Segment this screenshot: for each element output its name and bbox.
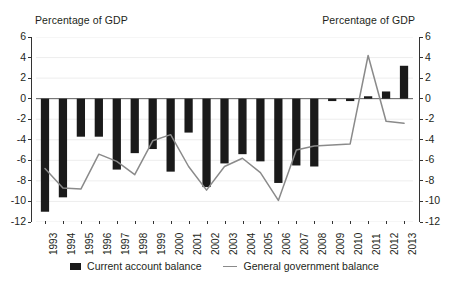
y-axis-tick-label: 6	[20, 31, 26, 42]
axis-tick-mark	[420, 201, 423, 202]
plot-area	[36, 37, 413, 222]
x-axis-tick-mark	[404, 221, 405, 224]
y-axis-tick-label: 2	[20, 72, 26, 83]
bar	[202, 99, 210, 187]
bar	[346, 99, 354, 101]
y-axis-tick-label: 6	[425, 31, 431, 42]
axis-tick-mark	[28, 222, 31, 223]
axis-tick-mark	[28, 201, 31, 202]
bar	[184, 99, 192, 133]
x-axis-tick-mark	[260, 221, 261, 224]
y-axis-tick-label: -6	[17, 154, 26, 165]
bar	[274, 99, 282, 183]
axis-tick-mark	[420, 57, 423, 58]
y-axis-tick-label: 2	[425, 72, 431, 83]
bar-swatch-icon	[70, 263, 81, 270]
x-axis-tick-label: 1998	[139, 233, 149, 255]
bar	[292, 99, 300, 166]
line-swatch-icon	[223, 266, 237, 267]
x-axis-tick-label: 1993	[49, 233, 59, 255]
x-axis-tick-label: 2008	[318, 233, 328, 255]
bar	[59, 99, 67, 198]
chart-canvas	[36, 37, 413, 222]
x-axis-tick-mark	[117, 221, 118, 224]
x-axis-tick-label: 2001	[193, 233, 203, 255]
x-axis-tick-mark	[99, 221, 100, 224]
axis-tick-mark	[420, 139, 423, 140]
x-axis-tick-label: 2004	[247, 233, 257, 255]
x-axis-tick-label: 2005	[264, 233, 274, 255]
bar	[382, 91, 390, 98]
x-axis-tick-mark	[332, 221, 333, 224]
x-axis-tick-mark	[171, 221, 172, 224]
left-axis-caption: Percentage of GDP	[35, 14, 128, 26]
bar	[77, 99, 85, 137]
x-axis-tick-label: 2012	[390, 233, 400, 255]
right-axis-caption: Percentage of GDP	[322, 14, 415, 26]
y-axis-tick-label: -2	[17, 113, 26, 124]
axis-tick-mark	[420, 160, 423, 161]
x-axis-tick-mark	[368, 221, 369, 224]
y-axis-tick-label: -8	[17, 175, 26, 186]
y-axis-tick-label: -10	[11, 195, 26, 206]
bar	[256, 99, 264, 162]
chart-figure: Percentage of GDP Percentage of GDP 6420…	[0, 0, 449, 290]
x-axis-tick-mark	[296, 221, 297, 224]
bar	[364, 96, 372, 98]
bar	[131, 99, 139, 153]
y-axis-tick-label: -4	[17, 134, 26, 145]
axis-tick-mark	[420, 98, 423, 99]
y-axis-tick-label: 0	[20, 93, 26, 104]
x-axis-tick-label: 1995	[85, 233, 95, 255]
axis-tick-mark	[420, 222, 423, 223]
y-axis-tick-label: -6	[425, 154, 434, 165]
y-axis-tick-label: 0	[425, 93, 431, 104]
bar	[41, 99, 49, 212]
axis-tick-mark	[28, 37, 31, 38]
y-axis-tick-label: -4	[425, 134, 434, 145]
x-axis-tick-mark	[135, 221, 136, 224]
x-axis-tick-label: 2011	[372, 233, 382, 255]
axis-tick-mark	[28, 180, 31, 181]
axis-tick-mark	[420, 180, 423, 181]
legend-label-government-balance: General government balance	[243, 260, 378, 272]
x-axis-tick-mark	[63, 221, 64, 224]
axis-tick-mark	[28, 139, 31, 140]
x-axis-tick-mark	[278, 221, 279, 224]
legend-item-government-balance: General government balance	[223, 260, 378, 272]
axis-tick-mark	[420, 78, 423, 79]
y-axis-tick-label: -2	[425, 113, 434, 124]
x-axis-tick-mark	[225, 221, 226, 224]
x-axis-tick-label: 1999	[157, 233, 167, 255]
y-axis-tick-label: -10	[425, 195, 440, 206]
bar	[220, 99, 228, 164]
bar	[328, 99, 336, 101]
y-axis-tick-label: -8	[425, 175, 434, 186]
y-axis-tick-label: 4	[20, 52, 26, 63]
x-axis-tick-mark	[386, 221, 387, 224]
x-axis-tick-mark	[45, 221, 46, 224]
x-axis-tick-label: 2002	[211, 233, 221, 255]
x-axis-tick-label: 2007	[300, 233, 310, 255]
x-axis-tick-label: 2000	[175, 233, 185, 255]
axis-tick-mark	[420, 119, 423, 120]
x-axis-tick-label: 1996	[103, 233, 113, 255]
x-axis-tick-mark	[189, 221, 190, 224]
x-axis: 1993199419951996199719981999200020012002…	[36, 224, 413, 258]
x-axis-tick-label: 2009	[336, 233, 346, 255]
axis-tick-mark	[28, 160, 31, 161]
axis-tick-mark	[420, 37, 423, 38]
x-axis-tick-label: 2006	[282, 233, 292, 255]
chart-legend: Current account balance General governme…	[0, 260, 449, 272]
axis-tick-mark	[28, 119, 31, 120]
x-axis-tick-mark	[243, 221, 244, 224]
x-axis-tick-mark	[350, 221, 351, 224]
bar	[238, 99, 246, 155]
y-axis-tick-label: -12	[425, 216, 440, 227]
bar	[113, 99, 121, 170]
x-axis-tick-mark	[207, 221, 208, 224]
bar	[310, 99, 318, 167]
legend-item-current-account: Current account balance	[70, 260, 201, 272]
x-axis-tick-label: 2003	[229, 233, 239, 255]
axis-spine	[31, 37, 32, 222]
